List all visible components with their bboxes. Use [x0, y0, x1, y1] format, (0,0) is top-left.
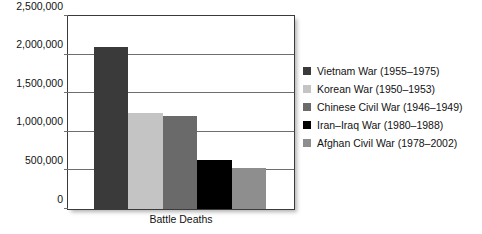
bar: [94, 47, 128, 209]
y-axis-tick-label: 1,500,000: [16, 77, 68, 88]
bar: [163, 116, 197, 209]
bar: [197, 160, 231, 209]
bar: [232, 168, 266, 209]
bar-chart-figure: 0500,0001,000,0001,500,0002,000,0002,500…: [0, 0, 482, 234]
y-axis-tick-mark: [64, 15, 68, 16]
legend-item-label: Afghan Civil War (1978–2002): [317, 138, 457, 149]
y-axis-tick-mark: [64, 131, 68, 132]
legend-item: Chinese Civil War (1946–1949): [303, 102, 463, 113]
bar-series: [94, 16, 266, 209]
y-axis-tick-mark: [64, 169, 68, 170]
y-axis-tick-label: 500,000: [25, 155, 68, 166]
plot-area: 0500,0001,000,0001,500,0002,000,0002,500…: [67, 15, 295, 210]
bar: [128, 113, 162, 210]
y-axis-tick-label: 1,000,000: [16, 116, 68, 127]
legend-item-label: Korean War (1950–1953): [317, 84, 435, 95]
y-axis-tick-mark: [64, 92, 68, 93]
legend-item-label: Chinese Civil War (1946–1949): [317, 102, 463, 113]
legend-item-label: Iran–Iraq War (1980–1988): [317, 120, 443, 131]
legend-swatch-icon: [303, 103, 311, 111]
x-axis-label: Battle Deaths: [67, 213, 295, 225]
y-axis-tick-label: 2,500,000: [16, 0, 68, 11]
legend-item: Vietnam War (1955–1975): [303, 66, 463, 77]
legend-swatch-icon: [303, 85, 311, 93]
chart-legend: Vietnam War (1955–1975)Korean War (1950–…: [303, 66, 463, 149]
legend-swatch-icon: [303, 139, 311, 147]
legend-swatch-icon: [303, 67, 311, 75]
legend-swatch-icon: [303, 121, 311, 129]
y-axis-tick-label: 0: [57, 193, 68, 204]
y-axis-tick-label: 2,000,000: [16, 39, 68, 50]
y-axis-tick-mark: [64, 54, 68, 55]
legend-item: Afghan Civil War (1978–2002): [303, 138, 463, 149]
legend-item: Korean War (1950–1953): [303, 84, 463, 95]
legend-item-label: Vietnam War (1955–1975): [317, 66, 440, 77]
y-axis-tick-mark: [64, 208, 68, 209]
legend-item: Iran–Iraq War (1980–1988): [303, 120, 463, 131]
